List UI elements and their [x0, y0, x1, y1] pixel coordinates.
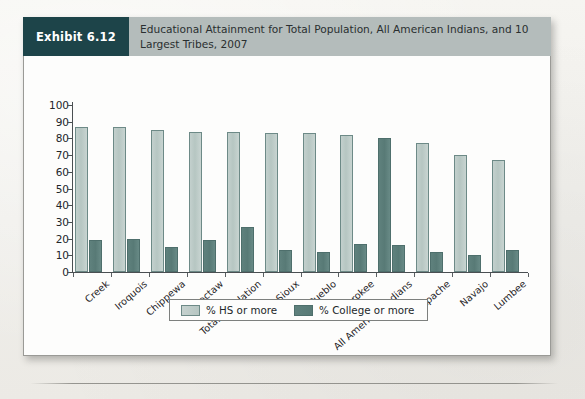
bar: [492, 160, 505, 272]
y-tick-mark: [67, 172, 72, 173]
x-tick-mark: [187, 273, 188, 277]
bar-group: [187, 105, 225, 272]
bar-group: [338, 105, 376, 272]
bar-group: [225, 105, 263, 272]
exhibit-title: Educational Attainment for Total Populat…: [129, 17, 551, 56]
y-tick-mark: [67, 255, 72, 256]
bar: [113, 127, 126, 272]
bar: [340, 135, 353, 272]
x-tick-label: Lumbee: [492, 278, 529, 312]
x-tick-mark: [149, 273, 150, 277]
bar-group: [301, 105, 339, 272]
bar-group: [263, 105, 301, 272]
bar: [468, 255, 481, 272]
bar: [354, 244, 367, 272]
bar: [454, 155, 467, 272]
bar: [430, 252, 443, 272]
y-tick-mark: [67, 155, 72, 156]
y-tick-mark: [67, 189, 72, 190]
y-tick-mark: [67, 138, 72, 139]
exhibit-card: Exhibit 6.12 Educational Attainment for …: [23, 17, 551, 356]
bar-group: [490, 105, 528, 272]
x-tick-mark: [414, 273, 415, 277]
bar-group: [414, 105, 452, 272]
legend-label: % HS or more: [206, 304, 277, 316]
legend-swatch: [181, 305, 200, 316]
x-tick-mark: [376, 273, 377, 277]
bar-series-area: [73, 105, 528, 272]
bar: [378, 138, 391, 272]
y-tick-mark: [67, 222, 72, 223]
bar: [189, 132, 202, 272]
y-tick-label: 100: [49, 99, 69, 111]
legend-item: % HS or more: [181, 304, 277, 316]
bar: [392, 245, 405, 272]
x-tick-label: Iroquois: [112, 278, 149, 312]
bar-group: [111, 105, 149, 272]
bar: [279, 250, 292, 272]
y-tick-mark: [67, 239, 72, 240]
bar-group: [376, 105, 414, 272]
x-tick-mark: [225, 273, 226, 277]
x-tick-label: Navajo: [458, 278, 491, 308]
bar: [165, 247, 178, 272]
bar: [203, 240, 216, 272]
exhibit-badge: Exhibit 6.12: [23, 17, 129, 56]
bar: [317, 252, 330, 272]
page-rule: [30, 383, 558, 384]
bar: [75, 127, 88, 272]
bar: [89, 240, 102, 272]
bar-group: [73, 105, 111, 272]
x-tick-mark: [73, 273, 74, 277]
bar: [227, 132, 240, 272]
bar: [265, 133, 278, 272]
bar: [127, 239, 140, 272]
x-tick-mark: [490, 273, 491, 277]
y-axis-tick-labels: 0102030405060708090100: [44, 105, 69, 270]
x-tick-mark: [301, 273, 302, 277]
x-tick-label: Creek: [83, 278, 112, 305]
y-tick-mark: [67, 272, 72, 273]
legend-item: % College or more: [294, 304, 414, 316]
bar: [241, 227, 254, 272]
y-tick-mark: [67, 105, 72, 106]
x-tick-mark: [263, 273, 264, 277]
bar: [506, 250, 519, 272]
x-tick-mark: [528, 273, 529, 277]
y-tick-mark: [67, 122, 72, 123]
x-tick-mark: [111, 273, 112, 277]
y-tick-mark: [67, 205, 72, 206]
x-tick-mark: [338, 273, 339, 277]
x-tick-mark: [452, 273, 453, 277]
bar: [303, 133, 316, 272]
legend-label: % College or more: [319, 304, 414, 316]
bar: [151, 130, 164, 272]
exhibit-header: Exhibit 6.12 Educational Attainment for …: [23, 17, 551, 56]
bar: [416, 143, 429, 272]
bar-group: [149, 105, 187, 272]
chart-legend: % HS or more% College or more: [169, 299, 428, 321]
bar-group: [452, 105, 490, 272]
legend-swatch: [294, 305, 313, 316]
chart-container: 0102030405060708090100 CreekIroquoisChip…: [23, 56, 551, 356]
